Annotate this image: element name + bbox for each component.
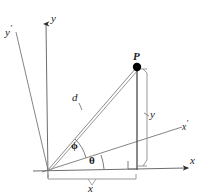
point-p-label: P [133, 51, 140, 62]
x-axis-label: x [190, 155, 195, 166]
y-prime-axis-line [16, 32, 48, 170]
y-axis-label: y [51, 13, 56, 24]
theta-angle-arc [101, 155, 104, 169]
point-p-marker [133, 63, 141, 71]
x-prime-axis-line [42, 127, 182, 172]
coordinate-diagram: y x y′ x′ P d y x ϕ θ [0, 0, 204, 194]
y-prime-axis-label: y′ [5, 24, 12, 38]
angle-phi-label: ϕ [71, 140, 78, 151]
y-component-label: y [150, 109, 155, 120]
diagram-canvas [0, 0, 204, 194]
angle-theta-label: θ [89, 155, 95, 166]
x-measure-bracket [48, 174, 136, 179]
y-prime-mark: ′ [10, 23, 12, 33]
primed-axes-group [16, 32, 182, 172]
right-angle-marker [128, 161, 136, 169]
y-component-group [137, 68, 149, 170]
cartesian-axes-group [33, 24, 186, 178]
distance-d-label: d [72, 92, 78, 103]
x-component-label: x [88, 183, 93, 194]
x-prime-axis-label: x′ [182, 119, 188, 133]
y-measure-bracket [143, 69, 147, 166]
x-axis-line [33, 168, 186, 171]
y-axis-line [46, 24, 48, 178]
x-prime-mark: ′ [186, 118, 188, 128]
y-label-tick [144, 113, 149, 116]
d-label-tick [79, 103, 82, 110]
